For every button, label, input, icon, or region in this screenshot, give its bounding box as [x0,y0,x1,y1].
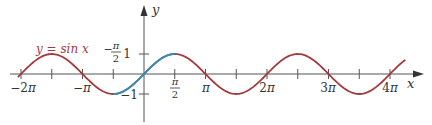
x-tick-label-neg-half-pi: − π 2 [103,40,121,64]
svg-text:2: 2 [172,89,178,100]
x-tick-label-neg-2pi: −2π [10,81,37,95]
function-label: y = sin x [35,42,89,56]
x-tick-label-4pi: 4π [382,81,399,95]
svg-text:2: 2 [113,53,119,64]
y-axis-label: y [151,2,160,17]
x-tick-label-half-pi: π 2 [170,76,180,100]
svg-text:−: − [103,43,112,56]
svg-text:π: π [171,76,179,87]
y-axis-arrow-icon [141,5,148,16]
chart-canvas: y x y = sin x 1 −1 −2π −π π 2π 3π 4π − π… [0,0,432,125]
x-axis-label: x [407,76,415,91]
x-axis-arrow-icon [413,71,424,78]
x-tick-label-2pi: 2π [259,81,276,95]
y-tick-label-neg1: −1 [120,88,138,102]
y-tick-label-1: 1 [123,47,131,61]
x-tick-label-3pi: 3π [320,81,337,95]
x-tick-label-neg-pi: −π [73,81,92,95]
sine-graph: y x y = sin x 1 −1 −2π −π π 2π 3π 4π − π… [0,0,432,125]
x-tick-label-pi: π [201,81,211,95]
svg-text:π: π [112,40,120,51]
